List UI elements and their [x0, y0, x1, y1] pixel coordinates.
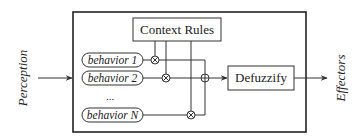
context-rules-label: Context Rules	[140, 22, 214, 37]
context-rules-box: Context Rules	[133, 18, 221, 41]
effectors-label: Effectors	[333, 55, 348, 103]
sum-node	[201, 74, 209, 82]
behavior-n-label: behavior N	[87, 109, 140, 121]
ellipsis: ...	[106, 90, 115, 102]
defuzzify-label: Defuzzify	[235, 70, 287, 85]
defuzzify-box: Defuzzify	[228, 66, 294, 90]
behavior-n-node: behavior N	[82, 108, 143, 122]
behavior-2-label: behavior 2	[88, 72, 138, 84]
perception-label: Perception	[15, 50, 30, 108]
multiply-node-2	[162, 74, 170, 82]
multiply-node-n	[187, 111, 195, 119]
behavior-2-node: behavior 2	[82, 71, 143, 85]
fuzzy-behavior-fusion-diagram: Perception Context Rules behavior 1 beha…	[0, 0, 361, 138]
multiply-node-1	[151, 56, 159, 64]
behavior-1-node: behavior 1	[82, 53, 143, 67]
behavior-1-label: behavior 1	[88, 54, 138, 66]
